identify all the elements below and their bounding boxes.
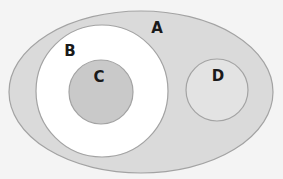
set-a-label: A — [151, 19, 163, 37]
set-c-label: C — [93, 68, 104, 86]
set-b-label: B — [64, 42, 75, 60]
euler-diagram: A B C D — [0, 0, 283, 179]
diagram-svg: A B C D — [0, 0, 283, 179]
set-d-label: D — [212, 67, 224, 85]
